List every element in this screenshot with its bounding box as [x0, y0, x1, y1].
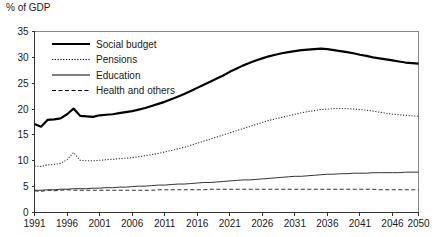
- chart-legend: Social budgetPensionsEducationHealth and…: [52, 39, 175, 97]
- y-axis-ticks: 05101520253035: [17, 26, 34, 218]
- y-tick-label: 10: [17, 155, 29, 166]
- x-tick-label: 2021: [219, 218, 242, 229]
- x-tick-label: 2036: [316, 218, 339, 229]
- x-tick-label: 2041: [349, 218, 372, 229]
- x-tick-label: 2001: [88, 218, 111, 229]
- y-tick-label: 15: [17, 129, 29, 140]
- legend-label-social-budget: Social budget: [96, 39, 157, 50]
- y-tick-label: 35: [17, 26, 29, 37]
- legend-label-health-and-others: Health and others: [96, 85, 175, 96]
- line-chart-plot: 05101520253035 1991199620012006201120162…: [0, 0, 436, 237]
- legend-label-pensions: Pensions: [96, 54, 137, 65]
- y-tick-label: 30: [17, 52, 29, 63]
- x-tick-label: 2050: [407, 218, 430, 229]
- x-tick-label: 2026: [251, 218, 274, 229]
- data-series-group: [35, 49, 419, 192]
- chart-container: % of GDP 05101520253035 1991199620012006…: [0, 0, 436, 237]
- y-tick-label: 25: [17, 78, 29, 89]
- y-tick-label: 5: [23, 181, 29, 192]
- x-tick-label: 2031: [284, 218, 307, 229]
- x-tick-label: 2006: [121, 218, 144, 229]
- x-tick-label: 1996: [56, 218, 79, 229]
- x-axis-ticks: 1991199620012006201120162021202620312036…: [23, 213, 430, 229]
- series-line-education: [35, 172, 419, 190]
- y-tick-label: 0: [23, 207, 29, 218]
- series-line-social-budget: [35, 49, 419, 127]
- legend-label-education: Education: [96, 70, 140, 81]
- plot-frame: [35, 32, 419, 213]
- x-tick-label: 2011: [154, 218, 176, 229]
- x-tick-label: 1991: [23, 218, 46, 229]
- y-tick-label: 20: [17, 104, 29, 115]
- x-tick-label: 2016: [186, 218, 209, 229]
- series-line-health-and-others: [35, 189, 419, 191]
- x-tick-label: 2046: [381, 218, 404, 229]
